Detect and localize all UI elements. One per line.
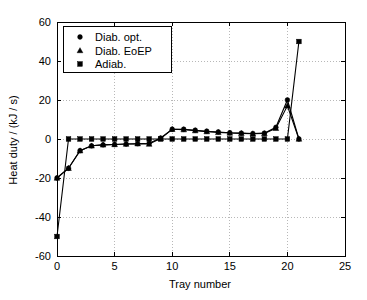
legend-label-square: Adiab. xyxy=(95,58,126,70)
data-point-square xyxy=(66,137,71,142)
data-point-legend-square xyxy=(78,62,83,67)
y-tick-label: 0 xyxy=(45,133,51,145)
y-axis-title: Heat duty / (kJ / s) xyxy=(7,95,19,184)
x-axis-title: Tray number xyxy=(169,278,231,290)
legend-label-triangle: Diab. EoEP xyxy=(95,45,152,57)
y-tick-label: -20 xyxy=(35,172,51,184)
y-tick-label: 60 xyxy=(39,16,51,28)
y-tick-label: -60 xyxy=(35,250,51,262)
data-point-square xyxy=(78,137,83,142)
y-tick-label: 40 xyxy=(39,55,51,67)
chart-legend: Diab. opt.Diab. EoEPAdiab. xyxy=(63,26,171,72)
data-point-square xyxy=(158,137,163,142)
data-point-square xyxy=(251,137,256,142)
x-tick-label: 5 xyxy=(112,260,118,272)
heat-duty-line-chart: 05101520256040200-20-40-60 Diab. opt.Dia… xyxy=(0,0,367,300)
data-point-square xyxy=(204,137,209,142)
data-point-square xyxy=(55,234,60,239)
data-point-square xyxy=(297,39,302,44)
data-point-square xyxy=(101,137,106,142)
data-point-square xyxy=(135,137,140,142)
plot-background xyxy=(0,0,367,300)
data-point-square xyxy=(262,137,267,142)
y-tick-label: -40 xyxy=(35,211,51,223)
data-point-square xyxy=(216,137,221,142)
legend-label-circle: Diab. opt. xyxy=(95,31,142,43)
data-point-circle xyxy=(285,98,290,103)
x-tick-label: 0 xyxy=(54,260,60,272)
data-point-square xyxy=(147,137,152,142)
data-point-square xyxy=(274,137,279,142)
data-point-square xyxy=(285,137,290,142)
data-point-square xyxy=(170,137,175,142)
data-point-square xyxy=(124,137,129,142)
x-tick-label: 25 xyxy=(339,260,351,272)
data-point-square xyxy=(193,137,198,142)
data-point-square xyxy=(228,137,233,142)
x-tick-label: 20 xyxy=(281,260,293,272)
x-tick-label: 15 xyxy=(224,260,236,272)
data-point-square xyxy=(181,137,186,142)
x-tick-label: 10 xyxy=(166,260,178,272)
data-point-square xyxy=(239,137,244,142)
data-point-square xyxy=(89,137,94,142)
data-point-square xyxy=(112,137,117,142)
y-tick-label: 20 xyxy=(39,94,51,106)
data-point-legend-circle xyxy=(78,35,83,40)
chart-figure: 05101520256040200-20-40-60 Diab. opt.Dia… xyxy=(0,0,367,300)
